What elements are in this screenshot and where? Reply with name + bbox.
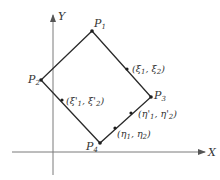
point-eta-prime-label: (η'1, η'2) (138, 108, 177, 121)
vertex-p3-label: P3 (153, 89, 166, 103)
point-xi-prime-label: (ξ'1, ξ'2) (66, 95, 104, 108)
x-axis-label: X (207, 146, 217, 159)
vertex-p1-label: P1 (93, 17, 106, 31)
point-eta-prime (129, 111, 132, 114)
point-xi (125, 67, 128, 70)
diagram-svg: X Y P1 P2 P3 P4 (ξ1, ξ2) (ξ'1, ξ'2) (η'1… (0, 0, 220, 180)
diagram-canvas: X Y P1 P2 P3 P4 (ξ1, ξ2) (ξ'1, ξ'2) (η'1… (0, 0, 220, 180)
y-axis-label: Y (58, 10, 67, 23)
point-xi-label: (ξ1, ξ2) (132, 63, 165, 76)
vertex-p4 (98, 141, 102, 145)
vertex-p4-label: P4 (85, 140, 98, 154)
point-eta-label: (η1, η2) (117, 128, 151, 141)
vertex-p2-label: P2 (27, 73, 40, 87)
vertex-p3 (149, 95, 153, 99)
point-xi-prime (60, 98, 63, 101)
quadrilateral-p1-p2-p4-p3 (41, 31, 151, 143)
